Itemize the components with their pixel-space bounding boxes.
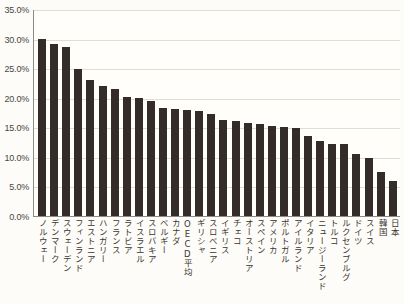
bar[interactable]	[195, 111, 203, 216]
bar[interactable]	[256, 124, 264, 216]
y-axis-tick-label: 0.0%	[9, 212, 29, 222]
x-label-slot: ハンガリー	[96, 219, 108, 304]
x-label-slot: 韓国	[375, 219, 387, 304]
bar[interactable]	[352, 154, 360, 216]
bar-slot	[387, 10, 399, 216]
bar-slot	[302, 10, 314, 216]
bar[interactable]	[292, 128, 300, 216]
x-label-slot: ラトビア	[120, 219, 132, 304]
bar[interactable]	[219, 120, 227, 216]
x-axis-tick-label: ドイツ	[352, 219, 361, 246]
bar[interactable]	[38, 39, 46, 216]
x-axis-tick-label: チェコ	[231, 219, 240, 246]
bar-chart: 35.0%30.0%25.0%20.0%15.0%10.0%5.0%0.0% ノ…	[0, 0, 404, 304]
x-label-slot: フィンランド	[71, 219, 83, 304]
x-label-slot: オーストリア	[241, 219, 253, 304]
bar-slot	[242, 10, 254, 216]
x-label-slot: スロベニア	[205, 219, 217, 304]
x-label-slot: フランス	[108, 219, 120, 304]
bar-slot	[48, 10, 60, 216]
x-label-slot: アメリカ	[266, 219, 278, 304]
y-axis-tick-label: 5.0%	[9, 182, 29, 192]
x-axis-tick-label: スペイン	[255, 219, 264, 255]
x-label-slot: スロバキア	[144, 219, 156, 304]
bar[interactable]	[171, 109, 179, 216]
x-label-slot: カナダ	[169, 219, 181, 304]
bar[interactable]	[135, 98, 143, 216]
bar-slot	[121, 10, 133, 216]
bar[interactable]	[62, 47, 70, 216]
bar-slot	[375, 10, 387, 216]
x-label-slot: ベルギー	[156, 219, 168, 304]
bar-slot	[72, 10, 84, 216]
y-axis-tick-label: 25.0%	[4, 64, 29, 74]
bar-slot	[254, 10, 266, 216]
y-axis: 35.0%30.0%25.0%20.0%15.0%10.0%5.0%0.0%	[0, 0, 31, 227]
bar[interactable]	[340, 144, 348, 216]
y-axis-tick-label: 35.0%	[4, 5, 29, 15]
bar[interactable]	[232, 121, 240, 216]
x-label-slot: エストニア	[84, 219, 96, 304]
bar-slot	[84, 10, 96, 216]
x-label-slot: イスラエル	[132, 219, 144, 304]
bar[interactable]	[365, 158, 373, 216]
x-axis-tick-label: ルクセンブルグ	[340, 219, 349, 282]
bar[interactable]	[244, 123, 252, 216]
bar-slot	[266, 10, 278, 216]
bar[interactable]	[99, 86, 107, 216]
bar-slot	[363, 10, 375, 216]
x-label-slot: 日本	[387, 219, 399, 304]
y-axis-tick-label: 10.0%	[4, 153, 29, 163]
bar[interactable]	[207, 114, 215, 216]
bar[interactable]	[123, 97, 131, 216]
x-label-slot: アイルランド	[290, 219, 302, 304]
bar[interactable]	[86, 80, 94, 216]
bar-slot	[278, 10, 290, 216]
x-axis-tick-label: ギリシャ	[194, 219, 203, 255]
x-axis-tick-label: フィンランド	[73, 219, 82, 273]
bar-slot	[290, 10, 302, 216]
x-axis-tick-label: トルコ	[328, 219, 337, 246]
x-axis-tick-label: スロベニア	[206, 219, 215, 264]
bar[interactable]	[111, 89, 119, 216]
x-axis-tick-label: エストニア	[85, 219, 94, 264]
bar[interactable]	[316, 141, 324, 216]
x-axis-tick-label: ノルウェー	[36, 219, 45, 264]
bar-slot	[145, 10, 157, 216]
x-axis-tick-label: イスラエル	[134, 219, 143, 264]
x-axis-tick-label: OECD平均	[182, 219, 191, 277]
y-axis-tick-label: 15.0%	[4, 123, 29, 133]
bar[interactable]	[328, 144, 336, 216]
x-label-slot: ドイツ	[351, 219, 363, 304]
bar-series	[34, 10, 400, 216]
x-axis-tick-label: イギリス	[219, 219, 228, 255]
x-axis-tick-label: カナダ	[170, 219, 179, 246]
bar[interactable]	[280, 127, 288, 216]
x-label-slot: ルクセンブルグ	[339, 219, 351, 304]
x-label-slot: スイス	[363, 219, 375, 304]
x-label-slot: スウェーデン	[59, 219, 71, 304]
x-axis-tick-label: スロバキア	[146, 219, 155, 264]
x-axis-tick-label: ニュージーランド	[316, 219, 325, 291]
bar[interactable]	[147, 101, 155, 216]
bar[interactable]	[268, 126, 276, 216]
bar-slot	[217, 10, 229, 216]
bar-slot	[157, 10, 169, 216]
bar[interactable]	[159, 108, 167, 216]
x-axis-tick-label: ラトビア	[121, 219, 130, 255]
bar[interactable]	[304, 136, 312, 216]
bar-slot	[338, 10, 350, 216]
x-label-slot: スペイン	[254, 219, 266, 304]
bar-slot	[350, 10, 362, 216]
x-axis-labels: ノルウェーデンマークスウェーデンフィンランドエストニアハンガリーフランスラトビア…	[33, 219, 400, 304]
bar[interactable]	[377, 172, 385, 216]
bar[interactable]	[74, 69, 82, 216]
bar-slot	[109, 10, 121, 216]
bar[interactable]	[183, 110, 191, 216]
bar-slot	[314, 10, 326, 216]
bar-slot	[181, 10, 193, 216]
bar[interactable]	[50, 44, 58, 216]
bar[interactable]	[389, 181, 397, 216]
x-label-slot: ニュージーランド	[314, 219, 326, 304]
bar-slot	[133, 10, 145, 216]
